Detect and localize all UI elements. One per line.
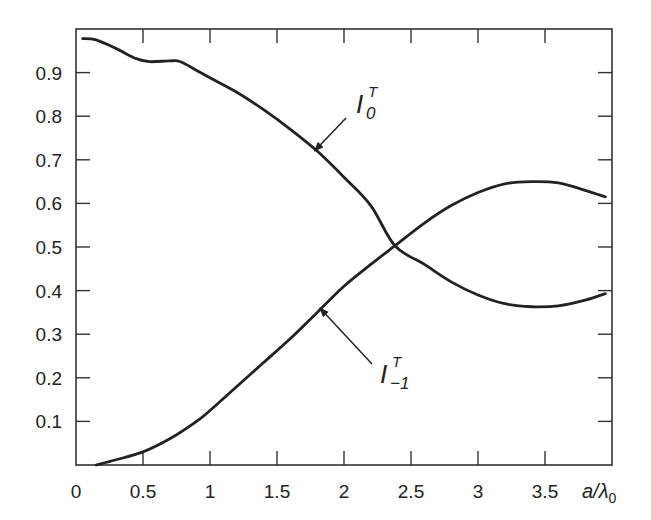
y-tick-label: 0.5 (36, 237, 62, 258)
svg-text:−1: −1 (390, 374, 409, 393)
x-tick-label: 3.5 (532, 481, 558, 502)
annotation-arrow (315, 118, 346, 151)
x-tick-label: 0.5 (130, 481, 156, 502)
x-axis-ticks: 00.511.522.533.5 (71, 29, 559, 502)
x-tick-label: 0 (71, 481, 82, 502)
x-tick-label: 1.5 (264, 481, 290, 502)
svg-text:T: T (392, 353, 403, 370)
label-I0-T: IT0 (356, 83, 379, 123)
x-tick-label: 2 (339, 481, 350, 502)
plot-border (76, 29, 612, 465)
x-tick-label: 3 (473, 481, 484, 502)
x-axis-label: a/λ0 (582, 480, 617, 506)
y-tick-label: 0.1 (36, 411, 62, 432)
axes-frame (76, 29, 612, 465)
y-tick-label: 0.6 (36, 193, 62, 214)
label-I-1-T: IT−1 (380, 353, 409, 393)
y-tick-label: 0.4 (36, 281, 63, 302)
series-annotations: IT0IT−1 (315, 83, 410, 393)
y-tick-label: 0.7 (36, 150, 62, 171)
y-axis-ticks: 0.10.20.30.40.50.60.70.80.9 (36, 63, 612, 433)
y-tick-label: 0.3 (36, 324, 62, 345)
svg-text:I: I (356, 89, 363, 119)
annotation-arrow (320, 308, 372, 364)
series-line-I-1 (96, 182, 605, 465)
svg-text:I: I (380, 359, 387, 389)
series-lines (83, 39, 606, 465)
x-tick-label: 2.5 (398, 481, 424, 502)
svg-text:T: T (368, 83, 379, 100)
y-tick-label: 0.9 (36, 63, 62, 84)
y-tick-label: 0.8 (36, 106, 62, 127)
y-tick-label: 0.2 (36, 368, 62, 389)
x-tick-label: 1 (205, 481, 216, 502)
svg-text:0: 0 (366, 104, 376, 123)
chart: 00.511.522.533.5 0.10.20.30.40.50.60.70.… (0, 0, 651, 520)
series-line-I0 (83, 39, 606, 307)
